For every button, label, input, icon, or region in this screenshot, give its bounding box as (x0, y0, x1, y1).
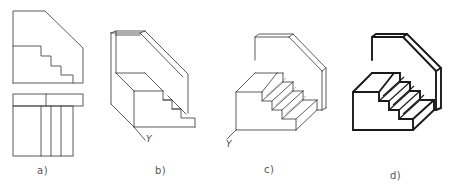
panel-b-y-axis-label: Y (146, 134, 152, 144)
staircase-drawing (0, 0, 453, 186)
panel-a-front-view (13, 11, 83, 83)
panel-c-y-axis-label: Y (226, 139, 232, 149)
panel-b-label: b) (155, 165, 166, 176)
panel-a-top-view (13, 94, 83, 156)
panel-d-label: d) (390, 170, 401, 181)
panel-c-label: c) (264, 164, 274, 175)
panel-d-final-isometric (353, 34, 441, 130)
panel-b-isometric-construction (111, 31, 195, 140)
panel-a-label: a) (37, 165, 48, 176)
